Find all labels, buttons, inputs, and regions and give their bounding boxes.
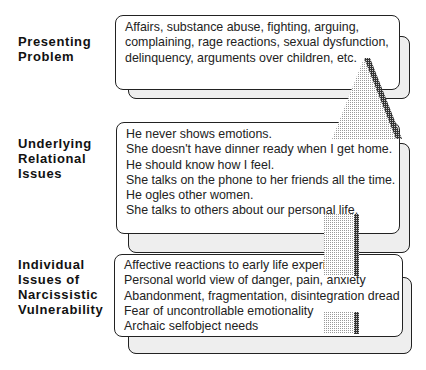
box-text: He never shows emotions. She doesn't hav… — [126, 127, 395, 219]
label-line: Issues of — [18, 272, 103, 287]
upward-arrow-icon — [300, 50, 410, 140]
text-line: She doesn't have dinner ready when I get… — [126, 142, 395, 157]
label-line: Issues — [18, 166, 92, 181]
label-line: Vulnerability — [18, 302, 103, 317]
text-line: complaining, rage reactions, sexual dysf… — [125, 35, 389, 50]
label-line: Problem — [18, 49, 91, 64]
level-label-underlying-relational: Underlying Relational Issues — [18, 136, 92, 181]
text-line: He ogles other women. — [126, 188, 395, 203]
text-line: Affairs, substance abuse, fighting, argu… — [125, 20, 389, 35]
text-line: Abandonment, fragmentation, disintegrati… — [124, 289, 400, 304]
label-line: Presenting — [18, 34, 91, 49]
connector-stub-icon — [324, 312, 364, 334]
label-line: Narcissistic — [18, 287, 103, 302]
level-label-narcissistic-vulnerability: Individual Issues of Narcissistic Vulner… — [18, 257, 103, 317]
connector-arrow-icon — [324, 214, 364, 276]
text-line: She talks on the phone to her friends al… — [126, 173, 395, 188]
level-label-presenting-problem: Presenting Problem — [18, 34, 91, 64]
label-line: Underlying — [18, 136, 92, 151]
text-line: He should know how I feel. — [126, 158, 395, 173]
label-line: Relational — [18, 151, 92, 166]
label-line: Individual — [18, 257, 103, 272]
